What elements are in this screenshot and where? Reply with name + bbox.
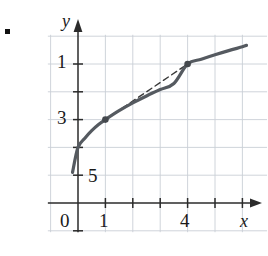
y-tick-label-1: 5: [88, 166, 98, 185]
x-axis-name-label: x: [240, 212, 248, 230]
y-tick-label-3: 3: [57, 108, 67, 127]
figure-container: 1 3 5 0 1 4 y x: [0, 0, 268, 256]
grid-lines-horizontal: [48, 36, 267, 231]
point-b: [184, 61, 191, 68]
x-tick-label-1: 1: [99, 211, 109, 230]
point-a: [102, 116, 109, 123]
x-tick-label-4: 4: [180, 211, 190, 230]
x-tick-label-0: 0: [60, 211, 70, 230]
y-axis-name-label: y: [62, 12, 70, 30]
y-tick-label-5: 1: [57, 52, 67, 71]
plot-canvas: [0, 0, 268, 256]
